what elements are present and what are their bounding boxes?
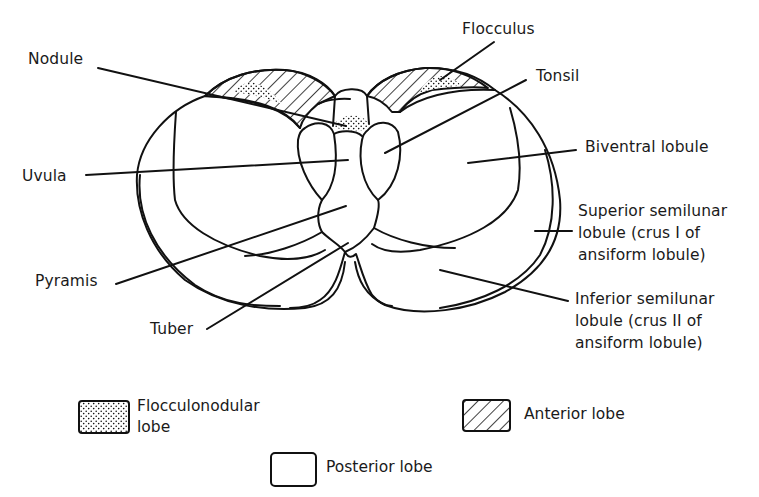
pyramis bbox=[318, 200, 379, 252]
label-inferior-semilunar-2: lobule (crus II of bbox=[575, 312, 702, 331]
legend-label-flocculonodular-2: lobe bbox=[137, 418, 170, 437]
label-inferior-semilunar-1: Inferior semilunar bbox=[575, 290, 715, 309]
leader-tuber bbox=[207, 243, 348, 329]
label-nodule: Nodule bbox=[28, 50, 83, 69]
leader-biventral bbox=[468, 150, 576, 163]
label-tuber: Tuber bbox=[150, 320, 193, 339]
label-superior-semilunar-1: Superior semilunar bbox=[578, 202, 727, 221]
uvula bbox=[334, 131, 362, 136]
vermis-top bbox=[335, 89, 367, 96]
legend-swatch-flocculonodular bbox=[79, 401, 129, 433]
label-pyramis: Pyramis bbox=[35, 272, 98, 291]
leader-inferior-semilunar bbox=[440, 270, 568, 301]
tonsil-right bbox=[361, 123, 401, 200]
label-superior-semilunar-2: lobule (crus I of bbox=[578, 224, 700, 243]
legend-label-flocculonodular-1: Flocculonodular bbox=[137, 397, 260, 416]
legend-label-anterior: Anterior lobe bbox=[524, 405, 625, 424]
legend-swatch-anterior bbox=[463, 400, 510, 431]
tuber bbox=[345, 252, 392, 306]
label-inferior-semilunar-3: ansiform lobule) bbox=[575, 334, 703, 353]
leader-pyramis bbox=[116, 206, 346, 284]
legend-swatch-posterior bbox=[271, 453, 316, 486]
legend-label-posterior: Posterior lobe bbox=[326, 458, 433, 477]
label-biventral-lobule: Biventral lobule bbox=[585, 138, 709, 157]
label-tonsil: Tonsil bbox=[536, 67, 579, 86]
label-superior-semilunar-3: ansiform lobule) bbox=[578, 246, 706, 265]
label-uvula: Uvula bbox=[22, 167, 67, 186]
label-flocculus: Flocculus bbox=[462, 20, 535, 39]
